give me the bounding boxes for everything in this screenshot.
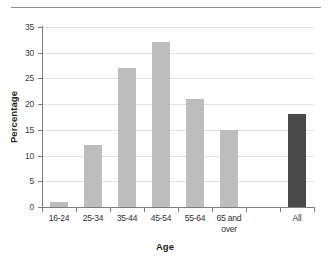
y-tick-label: 15 bbox=[12, 125, 34, 135]
x-axis-tick bbox=[246, 207, 247, 212]
y-axis-title: Percentage bbox=[6, 72, 20, 162]
x-axis-tick bbox=[178, 207, 179, 212]
x-axis-tick bbox=[110, 207, 111, 212]
x-tick-label: All bbox=[280, 213, 314, 224]
y-tick-label: 10 bbox=[12, 151, 34, 161]
x-tick-label: 35-44 bbox=[110, 213, 144, 224]
x-axis-tick bbox=[280, 207, 281, 212]
y-tick-label: 20 bbox=[12, 99, 34, 109]
y-tick-label: 0 bbox=[12, 202, 34, 212]
x-axis-title: Age bbox=[0, 241, 330, 252]
y-tick-label: 5 bbox=[12, 176, 34, 186]
y-tick-label: 25 bbox=[12, 73, 34, 83]
bar bbox=[288, 114, 307, 207]
y-tick-label: 30 bbox=[12, 48, 34, 58]
bar-chart-figure: Percentage 05101520253035 16-2425-3435-4… bbox=[0, 0, 330, 265]
x-axis-tick bbox=[144, 207, 145, 212]
y-tick-label: 35 bbox=[12, 22, 34, 32]
x-axis-tick bbox=[212, 207, 213, 212]
bar bbox=[84, 145, 103, 207]
x-tick-label: 65 and over bbox=[212, 213, 246, 234]
bar bbox=[118, 68, 137, 207]
x-tick-label: 55-64 bbox=[178, 213, 212, 224]
x-tick-label: 25-34 bbox=[76, 213, 110, 224]
x-axis-tick bbox=[314, 207, 315, 212]
top-divider-rule bbox=[11, 7, 321, 8]
x-axis-tick bbox=[76, 207, 77, 212]
bars-group bbox=[42, 27, 314, 207]
bar bbox=[152, 42, 171, 207]
x-axis-tick bbox=[42, 207, 43, 212]
bar bbox=[50, 202, 69, 207]
x-tick-label: 16-24 bbox=[42, 213, 76, 224]
x-tick-label: 45-54 bbox=[144, 213, 178, 224]
bar bbox=[220, 130, 239, 207]
bar bbox=[186, 99, 205, 207]
